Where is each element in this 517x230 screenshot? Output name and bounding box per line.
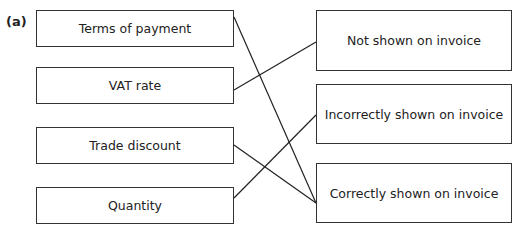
connector-lines <box>0 0 517 230</box>
connector-terms-to-correctly <box>234 17 316 203</box>
connector-vat-to-not-shown <box>234 42 316 90</box>
connector-quantity-to-incorrectly <box>234 115 316 198</box>
